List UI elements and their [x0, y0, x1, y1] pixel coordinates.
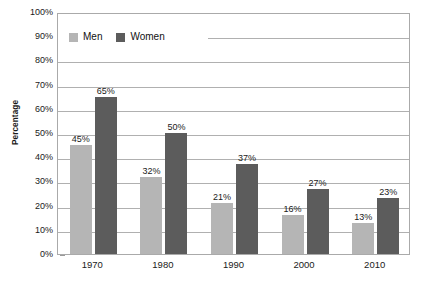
bar-women-2010	[377, 198, 399, 254]
bar-value-label: 65%	[90, 87, 122, 96]
y-tick-label: 40%	[11, 153, 53, 162]
y-tick-label: 20%	[11, 202, 53, 211]
bar-men-2000	[282, 215, 304, 254]
y-tick-mark	[60, 255, 65, 256]
y-tick-label: 10%	[11, 226, 53, 235]
bar-value-label: 45%	[65, 135, 97, 144]
y-tick-label: 50%	[11, 129, 53, 138]
legend-item-women: Women	[116, 32, 164, 42]
x-tick-label-1970: 1970	[67, 260, 117, 270]
bar-men-1990	[211, 203, 233, 254]
bar-women-2000	[307, 189, 329, 254]
y-tick-label: 70%	[11, 81, 53, 90]
bar-men-1970	[70, 145, 92, 254]
x-tick-label-2010: 2010	[350, 260, 400, 270]
chart-legend: MenWomen	[69, 28, 169, 46]
bar-value-label: 23%	[372, 188, 404, 197]
bar-women-1990	[236, 164, 258, 254]
bar-value-label: 13%	[347, 213, 379, 222]
legend-label: Women	[130, 32, 164, 42]
legend-swatch-icon	[116, 33, 125, 42]
plot-area: 45%65%32%50%21%37%16%27%13%23%	[57, 13, 410, 255]
y-tick-label: 60%	[11, 105, 53, 114]
bar-value-label: 21%	[206, 193, 238, 202]
y-axis-ticks: 100%90%80%70%60%50%40%30%20%10%0%	[8, 0, 53, 281]
bar-women-1970	[95, 97, 117, 254]
bar-value-label: 27%	[302, 179, 334, 188]
y-tick-label: 100%	[11, 8, 53, 17]
y-tick-label: 30%	[11, 177, 53, 186]
x-tick-label-1980: 1980	[138, 260, 188, 270]
bar-value-label: 50%	[160, 123, 192, 132]
x-tick-label-2000: 2000	[279, 260, 329, 270]
gridline	[58, 62, 409, 63]
y-tick-label: 90%	[11, 32, 53, 41]
legend-swatch-icon	[69, 33, 78, 42]
bar-men-1980	[140, 177, 162, 254]
bar-value-label: 16%	[277, 205, 309, 214]
bar-women-1980	[165, 133, 187, 254]
bar-value-label: 37%	[231, 154, 263, 163]
y-tick-label: 0%	[11, 250, 53, 259]
x-tick-label-1990: 1990	[209, 260, 259, 270]
gridline	[208, 38, 409, 39]
legend-item-men: Men	[69, 32, 102, 42]
bar-value-label: 32%	[135, 167, 167, 176]
bar-chart: Percentage 100%90%80%70%60%50%40%30%20%1…	[0, 0, 423, 281]
y-tick-label: 80%	[11, 56, 53, 65]
legend-label: Men	[83, 32, 102, 42]
bar-men-2010	[352, 223, 374, 254]
